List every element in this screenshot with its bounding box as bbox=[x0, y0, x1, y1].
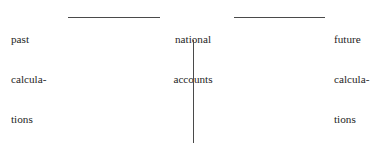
node-label-past-line-3: tions bbox=[11, 113, 46, 126]
node-label-past-line-2: calcula- bbox=[11, 73, 46, 86]
node-label-future-line-3: tions bbox=[334, 113, 369, 126]
node-label-future-line-1: future bbox=[334, 33, 369, 46]
node-label-future-line-2: calcula- bbox=[334, 73, 369, 86]
timeline-diagram: past calcula- tions national accounts fu… bbox=[0, 0, 390, 147]
node-label-past-line-1: past bbox=[11, 33, 46, 46]
connector-center-vertical-stem bbox=[193, 40, 194, 143]
node-label-future: future calcula- tions bbox=[334, 7, 369, 147]
connector-center-to-future bbox=[234, 17, 325, 18]
node-label-past: past calcula- tions bbox=[11, 7, 46, 147]
